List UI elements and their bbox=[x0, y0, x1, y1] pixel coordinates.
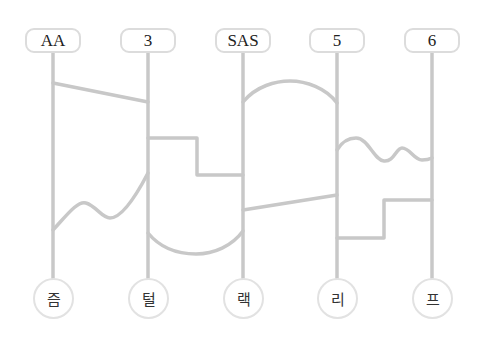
rung-aa-3-diagonal bbox=[53, 83, 148, 102]
rung-aa-3-wave bbox=[53, 173, 148, 230]
rung-5-6-step bbox=[337, 200, 432, 238]
bottom-label-3: 랙 bbox=[223, 278, 264, 319]
top-label-5: 6 bbox=[404, 28, 460, 53]
bottom-label-5: 프 bbox=[412, 278, 453, 319]
rung-sas-5-arch bbox=[243, 81, 337, 103]
bottom-label-2: 털 bbox=[128, 278, 169, 319]
rung-5-6-wave bbox=[337, 138, 432, 161]
top-label-4: 5 bbox=[309, 28, 365, 53]
bottom-label-4: 리 bbox=[317, 278, 358, 319]
top-label-3: SAS bbox=[215, 28, 271, 53]
bottom-label-1: 즘 bbox=[33, 278, 74, 319]
top-label-1: AA bbox=[25, 28, 81, 53]
rung-sas-5-diagonal bbox=[243, 195, 337, 210]
top-label-2: 3 bbox=[120, 28, 176, 53]
rung-3-sas-u-arc bbox=[148, 231, 243, 254]
rung-3-sas-step bbox=[148, 138, 243, 175]
